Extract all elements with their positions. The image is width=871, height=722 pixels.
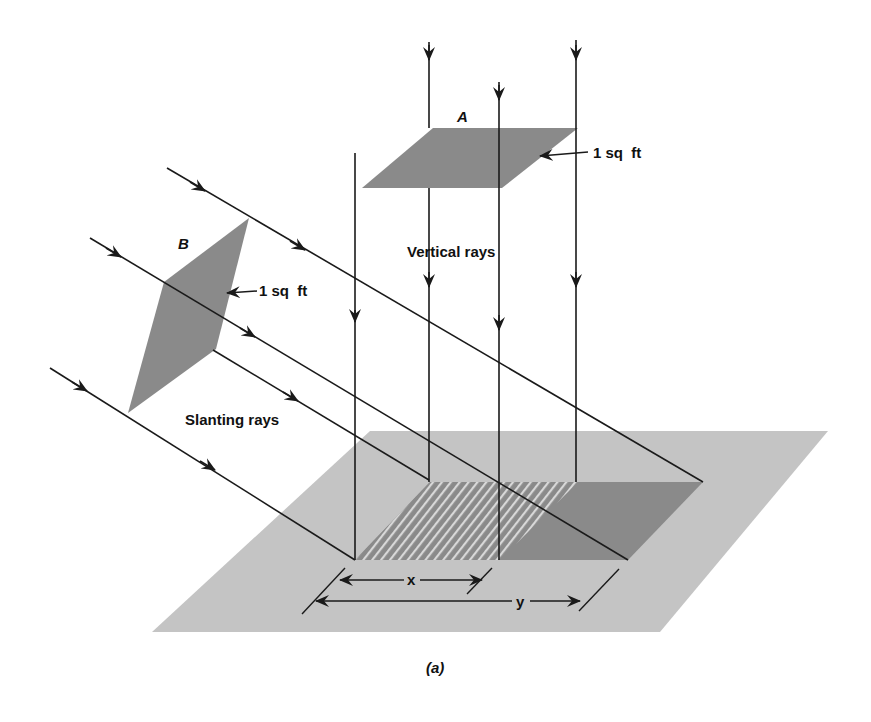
slanting-rays-label: Slanting rays [185,411,279,428]
square-b-label: B [178,235,189,252]
sun-angle-diagram: A 1 sq ft B 1 sq ft Vertical rays Slanti… [0,0,871,722]
square-b-leader [227,291,257,293]
dimension-y-label: y [516,593,525,610]
square-a-area-label: 1 sq ft [593,144,641,161]
vertical-rays-label: Vertical rays [407,243,495,260]
figure-caption: (a) [426,659,444,676]
dimension-x-label: x [407,571,416,588]
square-a-label: A [456,108,468,125]
square-b-area-label: 1 sq ft [259,282,307,299]
square-a-leader [540,152,588,156]
square-a [362,128,578,188]
